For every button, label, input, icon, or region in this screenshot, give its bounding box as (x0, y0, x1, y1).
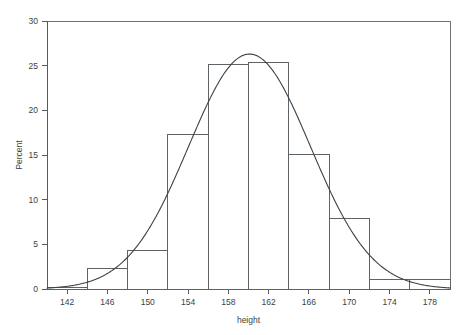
x-tick-label-166: 166 (302, 297, 316, 307)
x-tick-label-154: 154 (181, 297, 195, 307)
y-tick-label-0: 0 (33, 284, 38, 294)
x-tick-label-162: 162 (262, 297, 276, 307)
chart-container: 30 25 20 15 10 5 0 Percent (0, 0, 467, 335)
y-tick-label-5: 5 (33, 239, 38, 249)
y-tick-label-15: 15 (29, 150, 39, 160)
x-tick-label-142: 142 (60, 297, 74, 307)
y-tick-label-30: 30 (29, 16, 39, 26)
y-tick-label-25: 25 (29, 61, 39, 71)
histogram-chart: 30 25 20 15 10 5 0 Percent (0, 0, 467, 335)
x-tick-label-178: 178 (423, 297, 437, 307)
x-axis-title: height (237, 315, 261, 325)
x-tick-label-158: 158 (221, 297, 235, 307)
y-axis-title: Percent (14, 140, 24, 170)
x-tick-label-150: 150 (141, 297, 155, 307)
y-tick-label-20: 20 (29, 105, 39, 115)
x-tick-label-146: 146 (100, 297, 114, 307)
y-tick-label-10: 10 (29, 195, 39, 205)
x-tick-label-174: 174 (382, 297, 396, 307)
x-tick-label-170: 170 (342, 297, 356, 307)
chart-background (0, 0, 467, 335)
